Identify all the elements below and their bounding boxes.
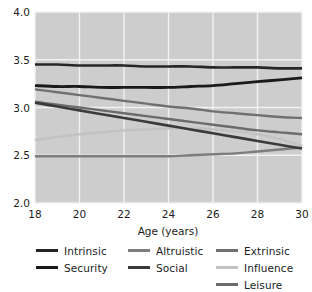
y-tick-label: 3.5 (13, 54, 30, 66)
y-axis-tick-labels: 4.03.53.02.52.0 (13, 6, 30, 209)
x-tick-label: 28 (251, 208, 264, 220)
legend-swatch-icon-altruistic (128, 249, 150, 252)
y-tick-label: 4.0 (13, 6, 30, 18)
legend-label-social: Social (156, 262, 188, 274)
chart-legend: Intrinsic Security Altruistic Social Ext… (36, 243, 312, 292)
legend-column-2: Altruistic Social (128, 243, 216, 275)
legend-item-security[interactable]: Security (36, 260, 128, 275)
x-tick-label: 22 (117, 208, 130, 220)
chart-figure: 4.03.53.02.52.0 18202224262830 Age (year… (0, 0, 312, 292)
legend-swatch-icon-extrinsic (216, 249, 238, 252)
legend-item-social[interactable]: Social (128, 260, 216, 275)
legend-label-altruistic: Altruistic (156, 245, 203, 257)
legend-swatch-icon-security (36, 266, 58, 269)
x-tick-label: 24 (162, 208, 176, 220)
x-tick-label: 18 (28, 208, 41, 220)
x-axis-title: Age (years) (138, 225, 199, 237)
legend-item-extrinsic[interactable]: Extrinsic (216, 243, 312, 258)
y-tick-label: 3.0 (13, 102, 30, 114)
legend-item-leisure[interactable]: Leisure (216, 277, 312, 292)
legend-label-intrinsic: Intrinsic (64, 245, 107, 257)
legend-swatch-icon-influence (216, 266, 238, 269)
legend-item-intrinsic[interactable]: Intrinsic (36, 243, 128, 258)
legend-swatch-icon-leisure (216, 283, 238, 286)
x-tick-label: 30 (295, 208, 308, 220)
x-tick-label: 26 (206, 208, 220, 220)
legend-label-security: Security (64, 262, 108, 274)
legend-swatch-icon-social (128, 266, 150, 269)
legend-column-3: Extrinsic Influence Leisure (216, 243, 312, 292)
x-axis-tick-labels: 18202224262830 (28, 208, 308, 220)
legend-label-influence: Influence (244, 262, 293, 274)
legend-item-altruistic[interactable]: Altruistic (128, 243, 216, 258)
legend-column-1: Intrinsic Security (36, 243, 128, 275)
legend-label-extrinsic: Extrinsic (244, 245, 290, 257)
x-tick-label: 20 (73, 208, 86, 220)
legend-label-leisure: Leisure (244, 279, 282, 291)
legend-item-influence[interactable]: Influence (216, 260, 312, 275)
y-tick-label: 2.5 (13, 149, 30, 161)
legend-swatch-icon-intrinsic (36, 249, 58, 252)
